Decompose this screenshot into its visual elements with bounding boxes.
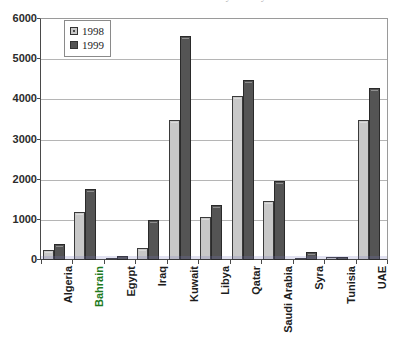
y-tick-mark bbox=[37, 219, 40, 220]
y-tick-mark bbox=[37, 259, 40, 260]
bar-group bbox=[356, 19, 387, 260]
bar-1998 bbox=[263, 201, 274, 260]
bar-highlight bbox=[171, 122, 178, 123]
y-tick-mark bbox=[37, 179, 40, 180]
bar-highlight bbox=[150, 222, 157, 223]
legend-label-1998: 1998 bbox=[82, 25, 104, 37]
bar-highlight bbox=[234, 98, 241, 99]
x-tick-mark bbox=[167, 260, 168, 264]
legend-label-1999: 1999 bbox=[82, 39, 104, 51]
bar-1999 bbox=[274, 181, 285, 260]
bar-1999 bbox=[211, 205, 222, 260]
bar-1998 bbox=[74, 212, 85, 260]
y-tick-label: 0 bbox=[3, 254, 37, 265]
y-tick-mark bbox=[37, 18, 40, 19]
bar-highlight bbox=[371, 90, 378, 91]
bar-1999 bbox=[243, 80, 254, 260]
bar-highlight bbox=[76, 214, 83, 215]
y-tick-mark bbox=[37, 98, 40, 99]
bar-1998 bbox=[232, 96, 243, 260]
bar-highlight bbox=[139, 250, 146, 251]
x-tick-mark bbox=[293, 260, 294, 264]
y-tick-label: 2000 bbox=[3, 174, 37, 185]
bar-highlight bbox=[213, 207, 220, 208]
x-tick-mark bbox=[41, 260, 42, 264]
x-axis-labels: AlgeriaBahrainEgyptIraqKuwaitLibyaQatarS… bbox=[41, 266, 387, 346]
bar-1998 bbox=[358, 120, 369, 260]
x-axis-ticks bbox=[41, 260, 387, 264]
x-label-egypt: Egypt bbox=[125, 266, 137, 346]
bar-group bbox=[230, 19, 261, 260]
chart-legend: 1998 1999 bbox=[64, 20, 111, 57]
y-tick-label: 5000 bbox=[3, 53, 37, 64]
x-tick-mark bbox=[261, 260, 262, 264]
x-label-algeria: Algeria bbox=[62, 266, 74, 346]
legend-item-1998: 1998 bbox=[70, 24, 104, 38]
bar-group bbox=[167, 19, 198, 260]
x-label-uae: UAE bbox=[376, 266, 388, 346]
y-tick-label: 1000 bbox=[3, 214, 37, 225]
y-tick-mark bbox=[37, 58, 40, 59]
legend-swatch-1998-icon bbox=[70, 27, 78, 35]
chart-title: Arab Countries Internet Hosts by Country… bbox=[40, 0, 370, 2]
bar-highlight bbox=[360, 122, 367, 123]
x-label-tunisia: Tunisia bbox=[345, 266, 357, 346]
bar-chart-figure: Arab Countries Internet Hosts by Country… bbox=[0, 0, 403, 346]
bar-group bbox=[261, 19, 292, 260]
bar-highlight bbox=[87, 191, 94, 192]
y-axis: 6000500040003000200010000 bbox=[0, 18, 37, 260]
bar-1999 bbox=[180, 36, 191, 260]
bar-1999 bbox=[85, 189, 96, 260]
bar-group bbox=[324, 19, 355, 260]
x-label-syra: Syra bbox=[313, 266, 325, 346]
x-tick-mark bbox=[230, 260, 231, 264]
y-tick-label: 3000 bbox=[3, 134, 37, 145]
x-label-saudi-arabia: Saudi Arabia bbox=[282, 266, 294, 346]
bar-highlight bbox=[245, 82, 252, 83]
legend-item-1999: 1999 bbox=[70, 38, 104, 52]
x-label-libya: Libya bbox=[219, 266, 231, 346]
scan-artifact bbox=[41, 256, 387, 259]
x-tick-mark bbox=[104, 260, 105, 264]
bar-highlight bbox=[265, 203, 272, 204]
bar-group bbox=[198, 19, 229, 260]
bar-1999 bbox=[369, 88, 380, 260]
x-tick-mark bbox=[198, 260, 199, 264]
bar-1999 bbox=[148, 220, 159, 260]
x-label-iraq: Iraq bbox=[156, 266, 168, 346]
bar-highlight bbox=[45, 252, 52, 253]
x-tick-mark bbox=[356, 260, 357, 264]
bar-highlight bbox=[182, 38, 189, 39]
y-tick-label: 4000 bbox=[3, 93, 37, 104]
x-label-kuwait: Kuwait bbox=[188, 266, 200, 346]
x-tick-mark bbox=[324, 260, 325, 264]
bar-1998 bbox=[169, 120, 180, 260]
bar-group bbox=[135, 19, 166, 260]
x-tick-mark bbox=[72, 260, 73, 264]
bar-highlight bbox=[276, 183, 283, 184]
bar-highlight bbox=[56, 246, 63, 247]
y-tick-label: 6000 bbox=[3, 13, 37, 24]
y-tick-mark bbox=[37, 139, 40, 140]
x-tick-mark bbox=[135, 260, 136, 264]
legend-swatch-1999-icon bbox=[70, 41, 78, 49]
bar-1998 bbox=[200, 217, 211, 260]
x-tick-mark bbox=[387, 260, 388, 264]
bar-highlight bbox=[202, 219, 209, 220]
bar-group bbox=[293, 19, 324, 260]
x-label-qatar: Qatar bbox=[250, 266, 262, 346]
x-label-bahrain: Bahrain bbox=[93, 266, 105, 346]
